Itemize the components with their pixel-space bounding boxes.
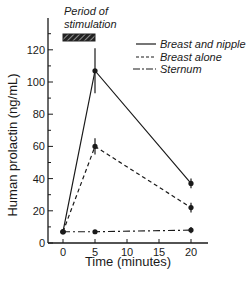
legend-breast-and-nipple: Breast and nipple [160,38,246,50]
x-axis-label: Time (minutes) [85,254,171,269]
y-ticks: 020406080100120 [27,34,53,249]
data-series [60,48,193,234]
y-tick-label: 40 [33,173,45,185]
y-tick-label: 80 [33,108,45,120]
stimulation-label-line2: stimulation [64,18,117,30]
data-point [92,68,97,73]
y-tick-label: 60 [33,140,45,152]
series-line [63,146,191,231]
data-point [92,229,97,234]
data-point [60,229,65,234]
y-tick-label: 100 [27,76,45,88]
y-tick-label: 120 [27,44,45,56]
legend: Breast and nipple Breast alone Sternum [133,38,246,75]
y-tick-label: 0 [39,237,45,249]
stimulation-period-bar [63,34,95,41]
x-tick-label: 0 [60,246,66,258]
stimulation-label-line1: Period of [64,5,109,17]
data-point [188,181,193,186]
series-line [63,71,191,232]
y-axis-label: Human prolactin (ng/mL) [5,73,20,216]
data-point [188,205,193,210]
y-tick-label: 20 [33,205,45,217]
legend-sternum: Sternum [160,63,202,75]
series-line [63,230,191,232]
data-point [188,228,193,233]
legend-breast-alone: Breast alone [160,51,222,63]
data-point [92,144,97,149]
prolactin-chart: 020406080100120 05101520 Period of stimu… [0,0,249,282]
x-tick-label: 20 [185,246,197,258]
